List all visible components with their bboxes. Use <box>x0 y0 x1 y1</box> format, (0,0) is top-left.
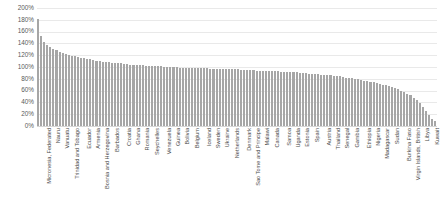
bar <box>185 68 187 126</box>
bar <box>136 65 138 126</box>
x-axis-tick-label: Ghana <box>136 128 142 145</box>
bar <box>268 71 270 126</box>
bar <box>403 92 405 126</box>
bar <box>139 65 141 126</box>
bar <box>317 74 319 126</box>
y-axis-tick-label: 120% <box>0 52 34 58</box>
y-axis-tick-label: 40% <box>0 99 34 105</box>
bar <box>428 115 430 126</box>
bar <box>314 74 316 126</box>
x-axis-tick-label: Spain <box>315 128 321 142</box>
bar <box>132 65 134 126</box>
bar <box>194 68 196 126</box>
bar <box>406 94 408 126</box>
x-axis-tick-label: Madagascar <box>385 128 391 159</box>
bar <box>379 84 381 126</box>
bar <box>228 69 230 126</box>
x-axis-tick-label: Trinidad and Tobago <box>75 128 81 179</box>
bar <box>345 78 347 126</box>
bar <box>157 66 159 126</box>
bar <box>145 66 147 126</box>
y-axis-tick-label: 100% <box>0 64 34 70</box>
y-axis-tick-label: 80% <box>0 76 34 82</box>
bar <box>40 36 42 126</box>
bar <box>422 107 424 126</box>
bar <box>231 69 233 126</box>
bar <box>333 76 335 126</box>
y-axis-tick-label: 180% <box>0 17 34 23</box>
bar <box>357 79 359 126</box>
bar <box>49 47 51 126</box>
x-axis-tick-label: Austria <box>327 128 333 145</box>
bar <box>409 95 411 126</box>
x-axis-tick-label: Thailand <box>336 128 342 149</box>
x-axis-tick-label: Iceland <box>207 128 213 146</box>
bar <box>376 83 378 126</box>
bar <box>172 67 174 126</box>
bar <box>363 81 365 126</box>
bar <box>120 63 122 126</box>
bar <box>212 69 214 126</box>
x-axis-tick-label: Bolivia <box>185 128 191 144</box>
bar <box>292 72 294 126</box>
bar <box>166 67 168 126</box>
bar <box>142 65 144 126</box>
bar <box>92 60 94 126</box>
bar <box>271 71 273 126</box>
bar <box>200 68 202 126</box>
bar <box>339 76 341 126</box>
bar <box>225 69 227 126</box>
bar <box>280 72 282 126</box>
bar <box>169 67 171 126</box>
bar <box>182 68 184 126</box>
bar <box>86 59 88 126</box>
bar <box>111 63 113 126</box>
x-axis-tick-label: Kuwait <box>435 128 440 145</box>
bar <box>197 68 199 126</box>
bar <box>382 85 384 126</box>
y-axis-tick-label: 60% <box>0 87 34 93</box>
x-axis-tick-label: Venezuela <box>167 128 173 154</box>
bar <box>416 100 418 126</box>
bar <box>305 73 307 126</box>
bar <box>114 63 116 126</box>
bar <box>126 64 128 126</box>
y-axis-tick-label: 20% <box>0 111 34 117</box>
x-axis-tick-label: Burkina Faso <box>407 128 413 161</box>
bar <box>95 61 97 126</box>
bar <box>123 64 125 126</box>
x-axis-tick-label: Sudan <box>395 128 401 144</box>
bar <box>163 67 165 126</box>
y-axis: 200%180%160%140%120%100%80%60%40%20%0% <box>0 0 36 132</box>
bar-series <box>37 8 437 126</box>
bar <box>425 111 427 126</box>
bar <box>188 68 190 126</box>
y-axis-tick-label: 0% <box>0 123 34 129</box>
x-axis-tick-label: Belgium <box>195 128 201 148</box>
x-axis-tick-label: Ecuador <box>87 128 93 149</box>
x-axis-tick-label: Uganda <box>296 128 302 148</box>
bar <box>148 66 150 126</box>
bar <box>99 61 101 126</box>
bar <box>286 72 288 126</box>
bar <box>240 70 242 126</box>
y-axis-tick-label: 140% <box>0 40 34 46</box>
bar <box>265 71 267 126</box>
x-axis-tick-label: Denmark <box>247 128 253 151</box>
x-axis-tick-label: Ukraine <box>225 128 231 147</box>
x-axis-tick-label: Seychelles <box>155 128 161 155</box>
x-axis-tick-label: Sweden <box>216 128 222 148</box>
bar <box>385 85 387 126</box>
x-axis-labels: Micronesia, FederatedNauruVanuatuTrinida… <box>37 128 437 218</box>
bar <box>234 69 236 126</box>
bar <box>191 68 193 126</box>
x-axis-tick-label: Canada <box>275 128 281 148</box>
bar <box>74 56 76 126</box>
bar <box>283 72 285 126</box>
bar <box>151 66 153 126</box>
bar <box>434 121 436 126</box>
bar <box>71 56 73 126</box>
bar <box>222 69 224 126</box>
x-axis-tick-label: Nigeria <box>376 128 382 146</box>
